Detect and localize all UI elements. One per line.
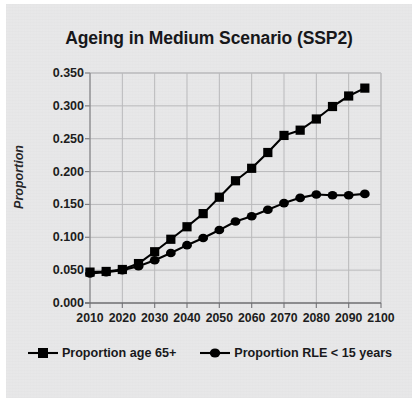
data-point-marker: [199, 209, 208, 218]
data-point-marker: [279, 199, 289, 208]
data-point-marker: [296, 126, 305, 135]
chart-screenshot: Ageing in Medium Scenario (SSP2) Proport…: [0, 0, 418, 403]
data-point-marker: [231, 176, 240, 185]
data-point-marker: [344, 91, 353, 100]
chart-legend: Proportion age 65+Proportion RLE < 15 ye…: [0, 345, 418, 361]
data-point-marker: [182, 241, 192, 250]
data-point-marker: [312, 114, 321, 123]
legend-item[interactable]: Proportion age 65+: [26, 345, 176, 361]
legend-label: Proportion RLE < 15 years: [234, 346, 392, 360]
chart-figure: Ageing in Medium Scenario (SSP2) Proport…: [0, 0, 418, 403]
legend-item[interactable]: Proportion RLE < 15 years: [198, 345, 392, 361]
data-point-marker: [231, 217, 241, 226]
plot-area: [0, 0, 418, 403]
data-point-marker: [344, 191, 354, 200]
data-point-marker: [117, 266, 127, 275]
legend-marker: [210, 348, 220, 357]
data-point-marker: [166, 235, 175, 244]
data-point-marker: [85, 269, 95, 278]
series-age65: [85, 84, 369, 277]
data-point-marker: [101, 268, 111, 277]
x-tick-label: 2100: [358, 311, 404, 325]
legend-square-marker-icon: [26, 345, 60, 361]
data-point-marker: [328, 191, 338, 200]
data-point-marker: [150, 247, 159, 256]
data-point-marker: [328, 102, 337, 111]
data-point-marker: [360, 190, 370, 199]
data-point-marker: [295, 194, 305, 203]
data-point-marker: [150, 256, 160, 265]
legend-circle-marker-icon: [198, 345, 232, 361]
series-line: [90, 194, 365, 274]
series-rle15: [85, 190, 370, 278]
legend-marker: [38, 348, 48, 358]
data-point-marker: [311, 190, 321, 199]
series-line: [90, 88, 365, 272]
data-point-marker: [215, 193, 224, 202]
data-point-marker: [247, 212, 257, 221]
legend-label: Proportion age 65+: [62, 346, 176, 360]
data-point-marker: [214, 226, 224, 235]
data-point-marker: [263, 205, 273, 214]
data-point-marker: [360, 84, 369, 93]
data-point-marker: [182, 222, 191, 231]
data-series-layer: [85, 84, 370, 278]
data-point-marker: [263, 148, 272, 157]
data-point-marker: [279, 131, 288, 140]
data-point-marker: [247, 164, 256, 173]
data-point-marker: [134, 262, 144, 271]
data-point-marker: [198, 234, 208, 243]
data-point-marker: [166, 249, 176, 258]
